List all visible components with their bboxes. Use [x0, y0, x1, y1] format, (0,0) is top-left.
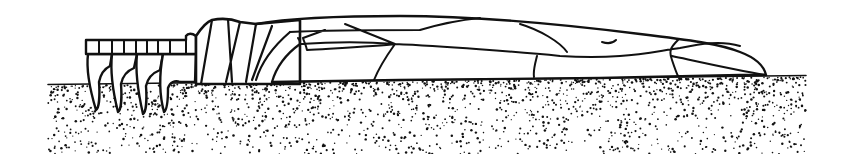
wing [256, 16, 766, 82]
wing-veins [290, 18, 766, 80]
claw-1 [87, 54, 112, 110]
organism-illustration [0, 0, 861, 154]
head-segments [86, 34, 196, 54]
thorax [196, 19, 300, 84]
head-outline [86, 34, 196, 54]
